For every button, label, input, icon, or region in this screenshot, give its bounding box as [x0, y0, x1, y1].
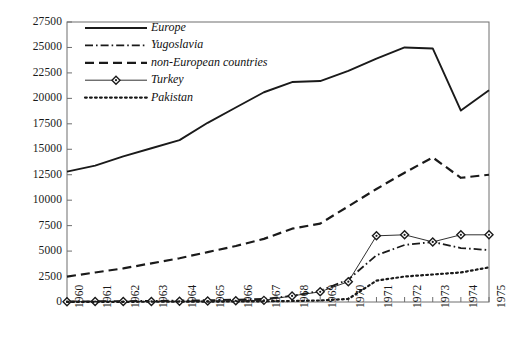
y-tick-label: 2500	[0, 270, 62, 282]
y-tick-label: 22500	[0, 66, 62, 78]
y-tick-label: 10000	[0, 193, 62, 205]
series-europe	[67, 47, 489, 171]
x-tick-label: 1972	[411, 285, 423, 308]
series-non-european-countries	[67, 157, 489, 276]
series-layer	[63, 47, 493, 305]
data-point-center	[347, 281, 349, 283]
y-tick-label: 15000	[0, 142, 62, 154]
x-tick-label: 1961	[101, 285, 113, 308]
x-tick-label: 1973	[439, 285, 451, 308]
x-tick-label: 1967	[270, 285, 282, 308]
series-line	[67, 157, 489, 276]
legend-marker-center	[115, 79, 117, 81]
y-tick-label: 12500	[0, 168, 62, 180]
x-tick-label: 1963	[157, 285, 169, 308]
y-tick-label: 17500	[0, 117, 62, 129]
data-point-center	[432, 241, 434, 243]
data-point-center	[404, 234, 406, 236]
legend-item-turkey: Turkey	[151, 72, 184, 87]
y-tick-label: 25000	[0, 40, 62, 52]
x-tick-label: 1974	[467, 285, 479, 308]
x-tick-label: 1965	[214, 285, 226, 308]
line-chart: 0250050007500100001250015000175002000022…	[0, 0, 506, 349]
y-tick-label: 7500	[0, 219, 62, 231]
x-tick-label: 1975	[495, 285, 506, 308]
series-line	[67, 47, 489, 171]
x-tick-label: 1970	[354, 285, 366, 308]
legend-item-pakistan: Pakistan	[151, 90, 193, 105]
y-tick-label: 5000	[0, 244, 62, 256]
y-axis-ticks	[67, 22, 72, 302]
x-tick-label: 1968	[298, 285, 310, 308]
y-tick-label: 0	[0, 295, 62, 307]
legend-item-yugoslavia: Yugoslavia	[151, 37, 203, 52]
data-point-center	[291, 295, 293, 297]
x-tick-label: 1962	[129, 285, 141, 308]
y-tick-label: 27500	[0, 15, 62, 27]
data-point-center	[488, 234, 490, 236]
x-tick-label: 1964	[186, 285, 198, 308]
data-point-center	[319, 291, 321, 293]
data-point-center	[375, 235, 377, 237]
x-tick-label: 1971	[382, 285, 394, 308]
legend-item-non-european: non-European countries	[151, 55, 268, 70]
x-tick-label: 1960	[73, 285, 85, 308]
data-point-center	[460, 234, 462, 236]
x-tick-label: 1969	[326, 285, 338, 308]
y-tick-label: 20000	[0, 91, 62, 103]
legend-item-turkey-swatch	[85, 76, 147, 84]
legend-item-europe: Europe	[151, 20, 186, 35]
x-tick-label: 1966	[242, 285, 254, 308]
